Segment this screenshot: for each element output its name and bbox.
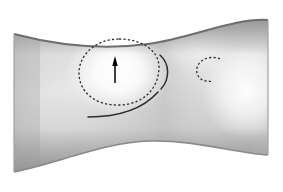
top-edge-shade [0, 14, 283, 54]
surface-diagram: Curved surface with dashed closed loop a… [0, 0, 283, 192]
primary-glow [66, 28, 170, 116]
figure-root: Curved surface with dashed closed loop a… [0, 0, 283, 192]
wavy-sheet [0, 0, 283, 192]
left-edge-shade [0, 0, 40, 192]
bottom-edge-shade [0, 128, 283, 178]
